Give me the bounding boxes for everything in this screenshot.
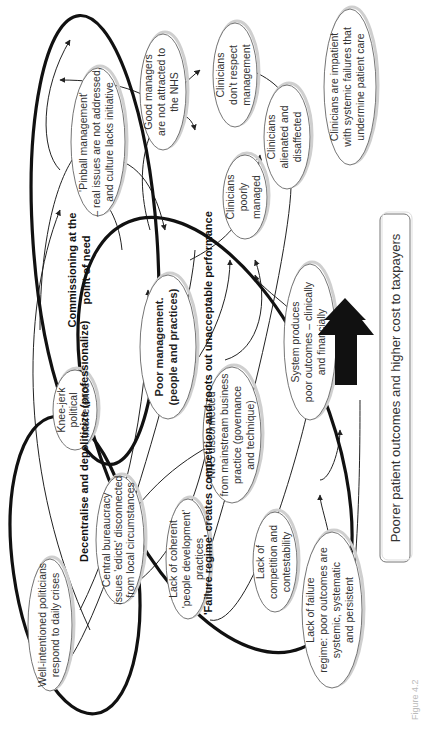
node-clinicians-respect: Clinicians don't respect management: [213, 21, 259, 127]
node-politicians: Well-intentioned politicians respond to …: [28, 557, 74, 691]
node-clinicians-poorly-line1: Clinicians: [224, 175, 236, 220]
node-people-development-line2: 'people development': [180, 510, 192, 609]
node-pinball: 'Pinball management' – real issues are n…: [71, 66, 127, 217]
node-central-bureaucracy-line3: from local circumstances: [124, 482, 136, 598]
node-clinicians-respect-line3: management: [240, 44, 252, 105]
node-competition-line1: Lack of: [254, 545, 266, 579]
node-clinicians-alienated: Clinicians alienated and disaffected: [264, 83, 312, 189]
node-knee-jerk: Knee-jerk political interference: [53, 368, 99, 450]
node-clinicians-impatient-line2: with systemic failures that: [341, 27, 353, 148]
node-pinball-line3: and culture lacks initiative: [103, 82, 115, 202]
node-good-managers-line3: the NHS: [168, 72, 180, 112]
outcome-box: Poorer patient outcomes and higher cost …: [380, 212, 412, 562]
node-good-managers: Good managers are not attracted to the N…: [140, 32, 188, 150]
node-nhs-disconnected-line4: and technique): [244, 400, 256, 469]
decentralise-label: Decentralise and depoliticize (professio…: [78, 320, 90, 562]
node-system-produces-line2: poor outcomes – clinically: [302, 281, 314, 402]
node-clinicians-respect-line1: Clinicians: [214, 53, 226, 98]
node-pinball-line1: 'Pinball management': [77, 92, 89, 192]
node-people-development-line1: Lack of coherent: [167, 520, 179, 598]
node-nhs-disconnected-line3: practice (governance: [231, 386, 243, 484]
node-system-produces: System produces poor outcomes – clinical…: [284, 262, 338, 420]
node-good-managers-line2: are not attracted to: [155, 48, 167, 136]
node-clinicians-respect-line2: don't respect: [227, 45, 239, 105]
commissioning-label-line2: point of need: [80, 235, 92, 304]
node-competition-line2: competition and: [267, 525, 279, 599]
node-clinicians-impatient-line1: Clinicians are impatient: [328, 33, 340, 142]
node-central-bureaucracy: Central bureaucracy issues 'edicts' disc…: [96, 474, 146, 604]
node-system-produces-line3: and financially: [315, 308, 327, 375]
node-competition-line3: contestability: [280, 531, 292, 592]
node-central-bureaucracy-line2: issues 'edicts' disconnected: [112, 475, 124, 604]
commissioning-label-line1: Commissioning at the: [66, 213, 78, 328]
node-poor-management: Poor management. (people and practices): [140, 273, 198, 419]
failure-regime-label: 'Failure regime' creates competition and…: [202, 211, 214, 615]
node-clinicians-poorly-line2: poorly: [237, 182, 249, 211]
node-failure-regime: Lack of failure regime: poor outcomes ar…: [302, 530, 364, 688]
outcome-text: Poorer patient outcomes and higher cost …: [388, 233, 403, 542]
node-knee-jerk-line1: Knee-jerk: [55, 387, 67, 433]
node-politicians-line2: respond to daily crises: [49, 573, 61, 677]
node-clinicians-alienated-line1: Clinicians: [265, 115, 277, 160]
node-failure-regime-line2: regime: poor outcomes are: [317, 547, 329, 673]
node-poor-management-line1: Poor management.: [153, 297, 165, 396]
node-clinicians-impatient-line3: undermine patient care: [354, 33, 366, 141]
node-failure-regime-line1: Lack of failure: [304, 577, 316, 643]
node-failure-regime-line4: and persistent: [343, 577, 355, 643]
node-central-bureaucracy-line1: Central bureaucracy: [100, 492, 112, 587]
node-politicians-line1: Well-intentioned politicians: [36, 563, 48, 687]
node-clinicians-poorly: Clinicians poorly managed: [223, 153, 269, 239]
node-clinicians-impatient: Clinicians are impatient with systemic f…: [324, 7, 378, 165]
node-system-produces-line1: System produces: [289, 301, 301, 382]
node-poor-management-line2: (people and practices): [167, 288, 179, 405]
node-clinicians-alienated-line2: alienated and: [278, 105, 290, 168]
node-nhs-disconnected-line2: from mainstream business: [218, 373, 230, 496]
node-clinicians-alienated-line3: disaffected: [291, 112, 303, 163]
node-failure-regime-line3: systemic, systematic: [330, 562, 342, 658]
node-pinball-line2: – real issues are not addressed,: [90, 67, 102, 216]
node-good-managers-line1: Good managers: [142, 54, 154, 129]
node-competition: Lack of competition and contestability: [253, 510, 299, 612]
figure-caption: Figure 4.2: [410, 679, 420, 720]
node-clinicians-poorly-line3: managed: [250, 175, 262, 219]
diagram-canvas: Well-intentioned politicians respond to …: [0, 0, 426, 730]
